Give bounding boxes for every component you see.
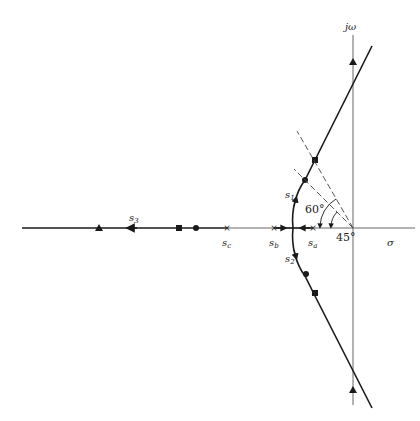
pole-sc: × xyxy=(223,223,231,233)
pole-sb-label: sb xyxy=(269,237,279,250)
branch-s2 xyxy=(293,228,372,408)
dot-marker xyxy=(303,271,309,277)
pole-sa-label: sa xyxy=(308,237,317,250)
square-marker xyxy=(176,225,182,231)
root-locus-diagram: jω σ × × × sc sb sa s1 s2 s3 60° 45° xyxy=(0,0,420,421)
triangle-marker xyxy=(349,386,357,393)
pole-sc-label: sc xyxy=(222,237,231,250)
dot-marker xyxy=(193,225,199,231)
angle-45-label: 45° xyxy=(336,231,356,244)
pole-sa: × xyxy=(309,223,317,233)
real-axis-label: σ xyxy=(387,237,395,248)
branch-s1 xyxy=(293,46,372,228)
branch-s2-label: s2 xyxy=(285,253,295,266)
branch-s3-label: s3 xyxy=(129,212,139,225)
triangle-marker xyxy=(349,58,357,65)
square-marker xyxy=(312,290,318,296)
branch-s1-label: s1 xyxy=(285,189,295,202)
imag-axis-label: jω xyxy=(343,21,356,32)
pole-sb: × xyxy=(270,223,278,233)
angle-60-label: 60° xyxy=(305,203,325,216)
angle-arc-45 xyxy=(331,212,337,226)
angle-line-45 xyxy=(294,169,353,228)
